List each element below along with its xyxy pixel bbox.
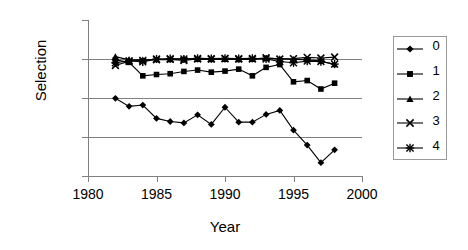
data-point-square — [291, 79, 297, 85]
y-tick-mark — [82, 98, 88, 99]
data-point-square — [195, 67, 201, 73]
data-point-square — [304, 78, 310, 84]
x-tick-label: 1985 — [127, 186, 187, 202]
legend-marker-asterisk-icon — [394, 136, 426, 161]
data-point-asterisk — [139, 58, 147, 66]
data-point-triangle — [112, 53, 119, 59]
x-tick-mark — [157, 177, 158, 182]
data-point-square — [407, 71, 413, 77]
x-tick-label: 1995 — [264, 186, 324, 202]
data-point-asterisk — [331, 60, 339, 68]
legend-label: 0 — [426, 39, 446, 59]
series-0 — [112, 95, 338, 166]
data-point-asterisk — [317, 57, 325, 65]
data-point-square — [332, 80, 338, 86]
data-point-asterisk — [235, 55, 243, 63]
chart-figure: Selection Year 01234 10.01.00.10.010.001… — [0, 0, 468, 250]
data-point-asterisk — [262, 55, 270, 63]
data-point-asterisk — [125, 57, 133, 65]
x-tick-mark — [362, 177, 363, 182]
legend-item-2[interactable]: 2 — [394, 87, 446, 112]
data-point-diamond — [167, 118, 174, 125]
series-4 — [111, 54, 338, 68]
y-tick-mark — [82, 20, 88, 21]
x-tick-label: 2000 — [332, 186, 392, 202]
legend-marker-square-icon — [394, 62, 426, 87]
legend-marker-diamond-icon — [394, 37, 426, 62]
legend-label: 4 — [426, 139, 446, 159]
y-tick-mark — [82, 59, 88, 60]
data-point-asterisk — [111, 59, 119, 67]
legend-label: 2 — [426, 89, 446, 109]
legend-label: 3 — [426, 114, 446, 134]
data-point-square — [222, 68, 228, 74]
data-point-square — [236, 66, 242, 72]
data-point-square — [250, 73, 256, 79]
x-tick-label: 1990 — [195, 186, 255, 202]
data-point-diamond — [126, 103, 133, 110]
data-point-asterisk — [303, 57, 311, 65]
data-point-diamond — [263, 111, 270, 118]
data-point-asterisk — [248, 54, 256, 62]
data-point-asterisk — [276, 57, 284, 65]
data-point-diamond — [406, 45, 413, 52]
legend-item-1[interactable]: 1 — [394, 62, 446, 87]
data-point-diamond — [112, 95, 119, 102]
y-tick-mark — [82, 137, 88, 138]
data-point-asterisk — [207, 55, 215, 63]
legend-item-3[interactable]: 3 — [394, 111, 446, 136]
legend-item-0[interactable]: 0 — [394, 37, 446, 62]
data-point-square — [154, 72, 160, 78]
data-point-square — [167, 71, 173, 77]
data-point-square — [263, 65, 269, 71]
legend-marker-cross-icon — [394, 111, 426, 136]
x-tick-label: 1980 — [58, 186, 118, 202]
data-point-asterisk — [194, 54, 202, 62]
data-point-asterisk — [180, 55, 188, 63]
data-point-asterisk — [152, 55, 160, 63]
data-point-diamond — [194, 111, 201, 118]
data-point-asterisk — [221, 54, 229, 62]
data-point-square — [140, 73, 146, 79]
legend-item-4[interactable]: 4 — [394, 136, 446, 161]
data-point-square — [181, 69, 187, 75]
data-point-square — [318, 86, 324, 92]
data-point-diamond — [276, 107, 283, 114]
chart-legend: 01234 — [393, 36, 447, 160]
data-point-asterisk — [166, 55, 174, 63]
legend-label: 1 — [426, 64, 446, 84]
data-point-square — [209, 69, 215, 75]
x-tick-mark — [294, 177, 295, 182]
data-point-diamond — [181, 119, 188, 126]
series-line — [115, 60, 334, 89]
data-point-asterisk — [289, 59, 297, 67]
legend-marker-triangle-icon — [394, 87, 426, 112]
data-point-diamond — [249, 119, 256, 126]
x-tick-mark — [88, 177, 89, 182]
x-tick-mark — [225, 177, 226, 182]
data-point-asterisk — [406, 144, 415, 153]
